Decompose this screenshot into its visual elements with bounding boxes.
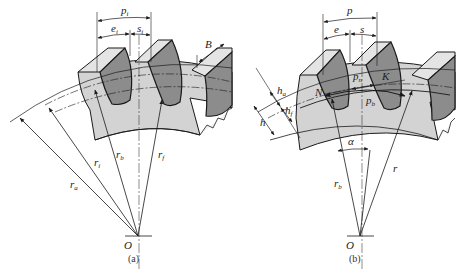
label-r-b: r [393,162,398,174]
label-k: K [381,70,390,82]
panel-a: pi ei si B ra ri rb rf O (a) [10,4,232,270]
label-n: N [314,86,323,98]
label-ha: ha [277,84,287,98]
caption-a: (a) [128,253,139,265]
dim-p-b [324,18,376,22]
label-rb: rb [116,148,124,162]
label-rb-b: rb [334,177,342,191]
label-h: h [260,116,266,128]
label-hf: hf [285,104,294,118]
label-b: B [205,38,212,50]
panel-b: p e s pn pb K N ha hf h α rb r O (b) [254,4,455,270]
dim-ei-a [98,34,129,38]
gear-geometry-diagram: pi ei si B ra ri rb rf O (a) [0,0,464,274]
label-ei: ei [111,22,118,36]
dim-pi-a [98,17,150,21]
label-alpha: α [348,135,354,147]
caption-b: (b) [349,253,361,265]
label-si: si [137,22,143,36]
label-ri: ri [94,156,100,170]
label-rf: rf [158,148,165,162]
label-s: s [360,23,364,35]
break-line-b [438,118,455,140]
label-e: e [334,23,339,35]
label-ra: ra [70,178,78,192]
label-p: p [346,4,353,16]
label-pi: pi [120,4,129,18]
label-center-o-a: O [124,239,132,251]
label-center-o-b: O [346,239,354,251]
